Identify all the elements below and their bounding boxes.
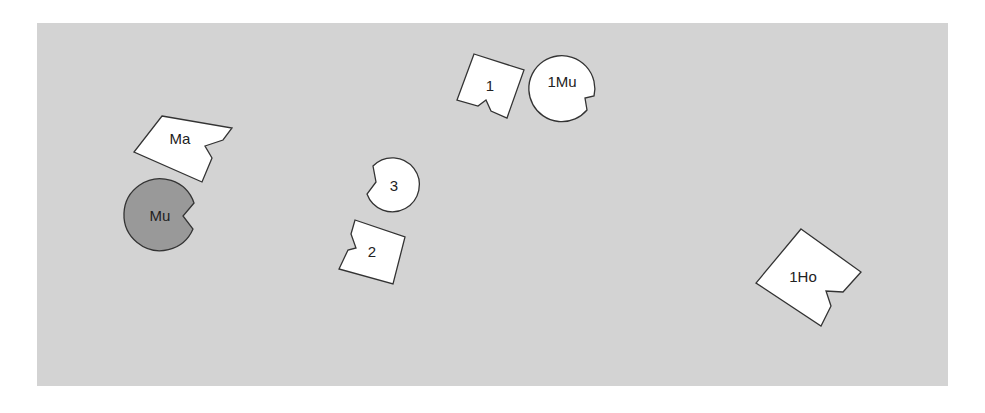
mu-label: Mu <box>150 207 171 224</box>
ma-label: Ma <box>170 130 191 147</box>
shape-3[interactable]: 3 <box>367 158 419 212</box>
one-mu-label: 1Mu <box>547 73 576 90</box>
shape-mu[interactable]: Mu <box>124 179 194 251</box>
one-label: 1 <box>486 77 494 94</box>
one-ho-label: 1Ho <box>789 268 817 285</box>
shape-1mu[interactable]: 1Mu <box>529 56 595 122</box>
diagram-svg: Ma Mu 1 1Mu 3 2 1Ho <box>0 0 985 413</box>
diagram-canvas: Ma Mu 1 1Mu 3 2 1Ho <box>0 0 985 413</box>
two-label: 2 <box>368 243 376 260</box>
three-label: 3 <box>390 177 398 194</box>
